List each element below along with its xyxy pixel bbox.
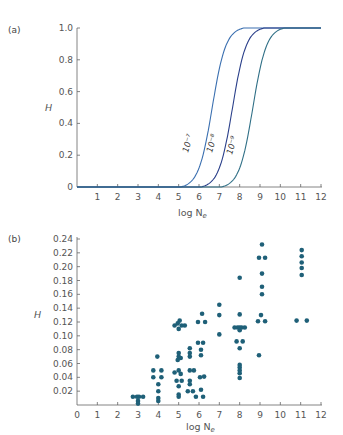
y-tick-label: 0.22	[53, 248, 73, 258]
x-tick-label: 9	[257, 192, 263, 202]
y-tick-label: 0.14	[53, 303, 73, 313]
data-point	[151, 375, 156, 380]
panel-a-x-axis-title: log Ne	[178, 207, 207, 220]
y-tick-label: 0.18	[53, 276, 73, 286]
curve-label-1e-9: 10⁻⁹	[224, 134, 239, 155]
x-tick-label: 3	[135, 410, 141, 420]
panel-b-x-axis-title: log Ne	[186, 421, 215, 434]
panel-a: (a) H 00.20.40.60.81.0 123456789101112 1…	[8, 23, 327, 220]
curve-10⁻⁷	[77, 28, 321, 187]
data-point	[203, 320, 208, 325]
y-tick-label: 0.10	[53, 331, 73, 341]
x-tick-label: 4	[155, 410, 161, 420]
data-point	[183, 323, 188, 328]
data-point	[257, 353, 262, 358]
data-point	[299, 254, 304, 259]
x-tick-label: 7	[216, 192, 222, 202]
data-point	[217, 313, 222, 318]
data-point	[194, 394, 199, 399]
data-point	[159, 375, 164, 380]
data-point	[299, 260, 304, 265]
data-point	[178, 372, 183, 377]
data-point	[141, 394, 146, 399]
data-point	[156, 389, 161, 394]
x-tick-label: 1	[94, 410, 100, 420]
data-point	[200, 311, 205, 316]
data-point	[260, 271, 265, 276]
data-point	[299, 248, 304, 253]
data-point	[176, 384, 181, 389]
curve-10⁻⁸	[77, 28, 321, 187]
data-point	[256, 319, 261, 324]
data-point	[191, 389, 196, 394]
data-point	[299, 266, 304, 271]
panel-b-points	[131, 242, 310, 406]
data-point	[237, 371, 242, 376]
data-point	[179, 379, 184, 384]
y-tick-label: 0.04	[53, 372, 73, 382]
data-point	[237, 346, 242, 351]
x-tick-label: 2	[115, 192, 121, 202]
data-point	[305, 318, 310, 323]
x-tick-label: 5	[176, 410, 182, 420]
x-tick-label: 12	[315, 410, 326, 420]
data-point	[260, 292, 265, 297]
x-tick-label: 9	[257, 410, 263, 420]
x-tick-label: 3	[135, 192, 141, 202]
data-point	[234, 339, 239, 344]
data-point	[237, 275, 242, 280]
x-tick-label: 0	[74, 410, 80, 420]
panel-b-y-axis-title: H	[34, 309, 41, 320]
x-tick-label: 10	[275, 410, 287, 420]
x-tick-label: 8	[237, 410, 243, 420]
data-point	[136, 401, 141, 406]
x-tick-label: 11	[295, 410, 306, 420]
panel-a-y-axis-title: H	[45, 102, 52, 113]
data-point	[192, 368, 197, 373]
x-tick-label: 5	[176, 192, 182, 202]
y-tick-label: 0.20	[53, 262, 73, 272]
data-point	[188, 382, 193, 387]
x-tick-label: 6	[196, 410, 202, 420]
data-point	[174, 379, 179, 384]
x-tick-label: 7	[216, 410, 222, 420]
panel-b-y-ticks: 0.020.040.060.080.100.120.140.160.180.20…	[53, 234, 80, 396]
data-point	[188, 354, 193, 359]
y-tick-label: 0.6	[59, 87, 74, 97]
data-point	[151, 368, 156, 373]
data-point	[237, 376, 242, 381]
data-point	[155, 354, 160, 359]
y-tick-label: 0.02	[53, 386, 73, 396]
data-point	[175, 358, 180, 363]
data-point	[196, 320, 201, 325]
panel-b: (b) H 0.020.040.060.080.100.120.140.160.…	[8, 234, 327, 434]
data-point	[217, 332, 222, 337]
curve-label-1e-7: 10⁻⁷	[180, 132, 195, 153]
curve-10⁻⁹	[77, 28, 321, 187]
y-tick-label: 1.0	[59, 23, 74, 33]
x-tick-label: 11	[295, 192, 306, 202]
y-tick-label: 0.06	[53, 359, 73, 369]
panel-a-curves	[77, 28, 321, 187]
x-tick-label: 2	[115, 410, 121, 420]
data-point	[257, 255, 262, 260]
data-point	[172, 370, 177, 375]
data-point	[176, 327, 181, 332]
data-point	[199, 388, 204, 393]
data-point	[199, 353, 204, 358]
data-point	[156, 399, 161, 404]
data-point	[240, 339, 245, 344]
y-tick-label: 0.4	[59, 118, 74, 128]
data-point	[201, 394, 206, 399]
figure: (a) H 00.20.40.60.81.0 123456789101112 1…	[0, 0, 343, 435]
data-point	[137, 394, 142, 399]
data-point	[263, 255, 268, 260]
data-point	[260, 242, 265, 247]
panel-b-label: (b)	[8, 234, 21, 244]
x-tick-label: 10	[275, 192, 287, 202]
data-point	[237, 312, 242, 317]
x-tick-label: 1	[94, 192, 100, 202]
data-point	[202, 374, 207, 379]
y-tick-label: 0.16	[53, 289, 73, 299]
data-point	[156, 382, 161, 387]
